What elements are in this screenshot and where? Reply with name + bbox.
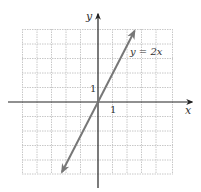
axes (8, 14, 192, 188)
line-y-equals-2x (98, 31, 135, 102)
y-tick-label: 1 (90, 83, 96, 94)
x-tick-label: 1 (110, 104, 116, 115)
graph: y x 1 1 y = 2x (0, 0, 201, 192)
line-equation-label: y = 2x (129, 46, 163, 57)
y-axis-label: y (85, 10, 93, 23)
x-axis-label: x (185, 104, 192, 117)
